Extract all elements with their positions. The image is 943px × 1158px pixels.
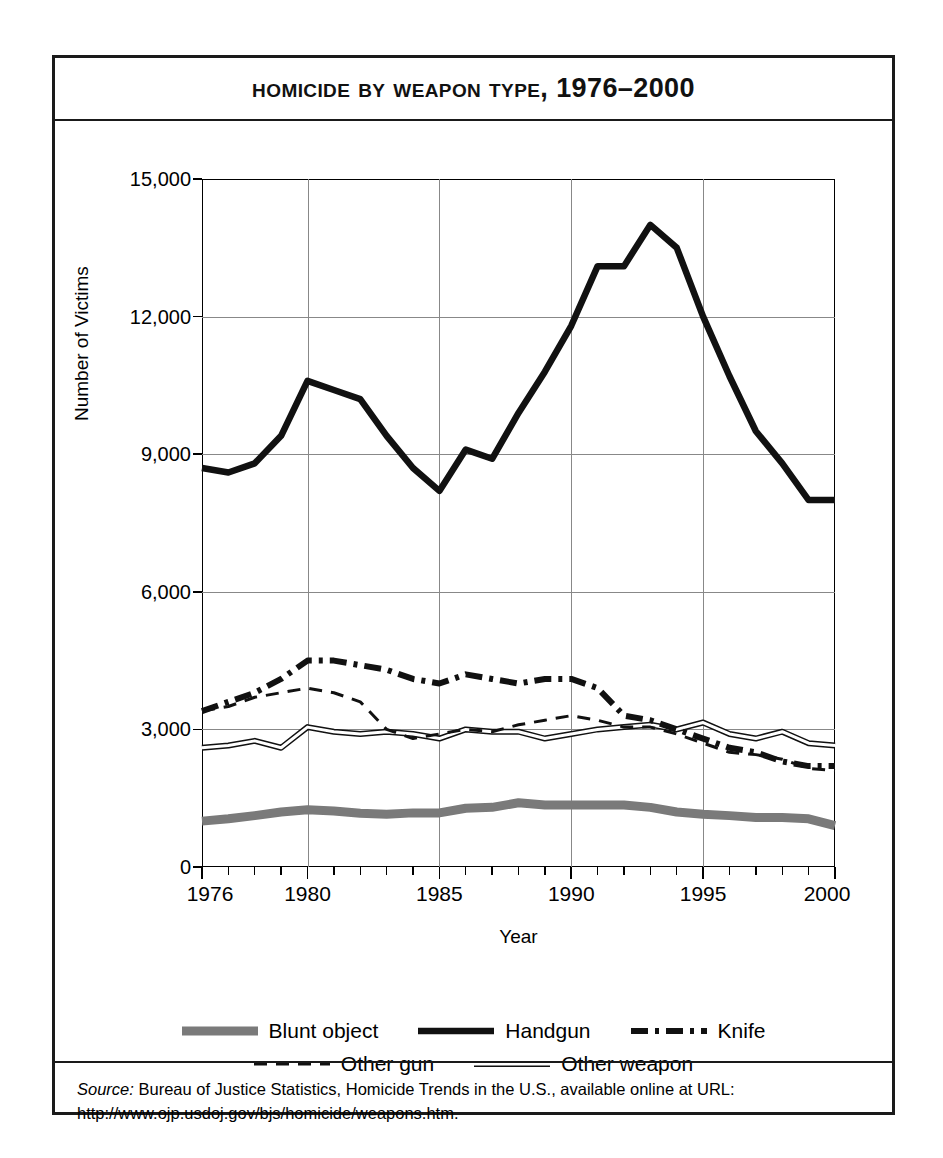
- x-tick-minor: [782, 867, 783, 875]
- x-tick-minor: [360, 867, 361, 875]
- legend-line-icon: [631, 1023, 707, 1039]
- x-tick-label: 2000: [804, 882, 851, 906]
- x-tick-minor: [650, 867, 651, 875]
- x-tick-minor: [518, 867, 519, 875]
- source-note: Source: Bureau of Justice Statistics, Ho…: [77, 1078, 870, 1126]
- x-tick-minor: [333, 867, 334, 875]
- x-tick-major: [439, 867, 441, 879]
- source-url: http://www.ojp.usdoj.gov/bjs/homicide/we…: [77, 1104, 459, 1122]
- y-tick-mark: [193, 453, 202, 455]
- y-tick-label: 6,000: [141, 580, 191, 603]
- x-tick-major: [201, 867, 203, 879]
- legend-label: Handgun: [505, 1019, 590, 1043]
- legend-swatch: [631, 1023, 707, 1039]
- x-tick-minor: [676, 867, 677, 875]
- x-tick-label: 1990: [548, 882, 595, 906]
- x-tick-major: [307, 867, 309, 879]
- y-tick-mark: [193, 591, 202, 593]
- x-tick-label: 1976: [187, 882, 234, 906]
- legend-label: Knife: [718, 1019, 766, 1043]
- series-knife: [202, 661, 835, 766]
- series-handgun: [202, 225, 835, 500]
- x-tick-minor: [623, 867, 624, 875]
- series-layer: [202, 179, 835, 867]
- legend-item-handgun[interactable]: Handgun: [418, 1019, 590, 1043]
- x-tick-major: [834, 867, 836, 879]
- x-tick-minor: [755, 867, 756, 875]
- legend-label: Blunt object: [269, 1019, 379, 1043]
- source-label: Source:: [77, 1080, 134, 1098]
- source-body: Bureau of Justice Statistics, Homicide T…: [134, 1080, 735, 1098]
- series-blunt-object: [202, 803, 835, 826]
- y-tick-label: 0: [180, 856, 191, 879]
- legend-line-icon: [418, 1023, 494, 1039]
- x-tick-minor: [228, 867, 229, 875]
- y-tick-mark: [193, 729, 202, 731]
- x-tick-minor: [729, 867, 730, 875]
- x-tick-label: 1980: [284, 882, 331, 906]
- legend-swatch: [182, 1023, 258, 1039]
- x-tick-minor: [280, 867, 281, 875]
- legend-swatch: [418, 1023, 494, 1039]
- y-tick-label: 9,000: [141, 443, 191, 466]
- y-tick-label: 15,000: [130, 168, 191, 191]
- x-tick-label: 1995: [680, 882, 727, 906]
- x-tick-minor: [491, 867, 492, 875]
- page-title: Homicide by Weapon Type, 1976–2000: [252, 73, 695, 104]
- title-band: Homicide by Weapon Type, 1976–2000: [55, 58, 892, 121]
- plot-wrapper: Number of Victims 03,0006,0009,00012,000…: [55, 121, 892, 1061]
- chart-figure: Homicide by Weapon Type, 1976–2000 Numbe…: [52, 55, 895, 1115]
- y-tick-label: 12,000: [130, 305, 191, 328]
- y-tick-mark: [193, 178, 202, 180]
- legend-item-knife[interactable]: Knife: [631, 1019, 766, 1043]
- plot-area: 03,0006,0009,00012,00015,000 19761980198…: [202, 179, 835, 867]
- legend-row-1: Blunt objectHandgunKnife: [182, 1019, 766, 1043]
- source-band: Source: Bureau of Justice Statistics, Ho…: [55, 1061, 892, 1112]
- x-tick-minor: [465, 867, 466, 875]
- y-tick-label: 3,000: [141, 718, 191, 741]
- x-tick-minor: [544, 867, 545, 875]
- x-tick-minor: [386, 867, 387, 875]
- legend-line-icon: [182, 1023, 258, 1039]
- legend-item-blunt-object[interactable]: Blunt object: [182, 1019, 379, 1043]
- x-tick-minor: [254, 867, 255, 875]
- x-tick-major: [702, 867, 704, 879]
- x-tick-minor: [808, 867, 809, 875]
- x-tick-major: [570, 867, 572, 879]
- y-tick-mark: [193, 316, 202, 318]
- x-tick-label: 1985: [416, 882, 463, 906]
- y-axis-label: Number of Victims: [71, 266, 93, 421]
- x-axis-label: Year: [202, 926, 835, 948]
- x-tick-minor: [412, 867, 413, 875]
- x-tick-minor: [597, 867, 598, 875]
